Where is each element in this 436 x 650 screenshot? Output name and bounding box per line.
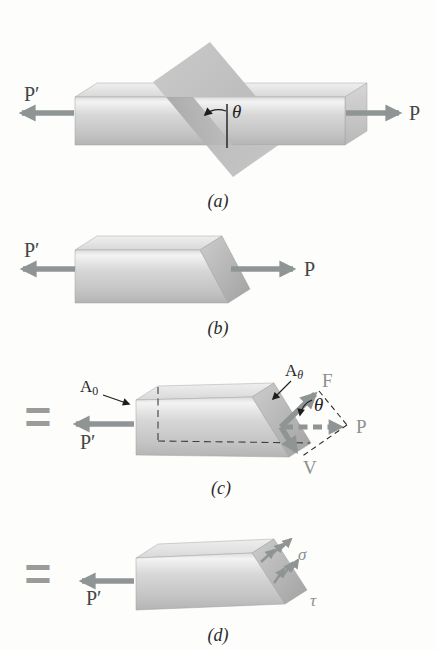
subfigure-b: P P′ (b) xyxy=(23,236,315,339)
sigma-label: σ xyxy=(298,545,307,564)
force-label-p: P xyxy=(356,416,367,437)
tau-label: τ xyxy=(310,591,317,610)
force-label-p: P xyxy=(304,258,315,280)
force-label-p-prime: P′ xyxy=(80,431,96,453)
area0-label: A0 xyxy=(80,377,98,398)
subfigure-a: θ P P′ (a) xyxy=(22,42,420,212)
force-label-p: P xyxy=(409,102,420,124)
caption-c: (c) xyxy=(211,478,231,499)
area0-pointer-arrow xyxy=(103,395,129,404)
force-label-p-prime: P′ xyxy=(24,83,40,105)
force-label-p-prime: P′ xyxy=(24,239,40,261)
theta-label: θ xyxy=(232,101,241,122)
force-label-p-prime: P′ xyxy=(86,587,102,609)
bar-top-face xyxy=(75,236,222,250)
equals-sign: = xyxy=(25,391,52,443)
sigma-arrow xyxy=(278,539,291,551)
caption-a: (a) xyxy=(208,191,229,212)
oblique-section-diagram: θ P P′ (a) P P′ (b) = P′ A0 Aθ F xyxy=(0,0,436,650)
subfigure-c: = P′ A0 Aθ F V P θ (c) xyxy=(25,361,367,499)
equals-sign: = xyxy=(25,548,52,600)
area-theta-label: Aθ xyxy=(285,361,303,382)
force-label-f: F xyxy=(322,370,333,391)
caption-b: (b) xyxy=(208,318,229,339)
force-label-v: V xyxy=(303,457,317,478)
subfigure-d: = P′ σ τ (d) xyxy=(25,539,317,646)
textbook-figure-page: θ P P′ (a) P P′ (b) = P′ A0 Aθ F xyxy=(0,0,436,650)
theta-label: θ xyxy=(314,394,323,415)
caption-d: (d) xyxy=(208,625,229,646)
